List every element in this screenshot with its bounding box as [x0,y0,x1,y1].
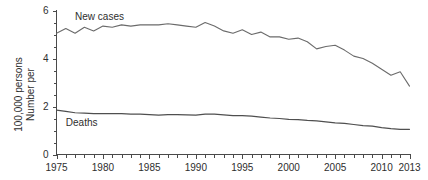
y-axis-title-line2: 100,000 persons [13,57,24,132]
series-line-new-cases [57,23,410,87]
x-tick-label: 1995 [231,162,254,173]
y-axis-title-line1: Number per [25,67,36,120]
y-tick-label: 6 [43,5,49,16]
series-line-deaths [57,110,410,129]
x-tick-label: 2000 [278,162,301,173]
x-tick-label: 1975 [45,162,68,173]
data-series [57,23,410,130]
y-axis-title: Number per100,000 persons [13,57,36,132]
y-tick-label: 4 [43,53,49,64]
x-tick-label: 1990 [185,162,208,173]
series-labels: New casesDeaths [66,11,124,128]
x-tick-label: 1985 [138,162,161,173]
axis-tick-labels: 1975198019851990199520002005201020130246 [43,5,421,173]
axes [57,10,411,155]
axis-ticks [53,12,411,159]
series-label-deaths: Deaths [66,117,98,128]
chart-container: 1975198019851990199520002005201020130246… [0,0,428,180]
y-tick-label: 2 [43,101,49,112]
x-tick-label: 2010 [371,162,394,173]
x-tick-label: 2005 [324,162,347,173]
y-tick-label: 0 [43,149,49,160]
x-tick-label: 2013 [398,162,421,173]
x-tick-label: 1980 [92,162,115,173]
series-label-new-cases: New cases [75,11,124,22]
line-chart: 1975198019851990199520002005201020130246… [0,0,428,180]
